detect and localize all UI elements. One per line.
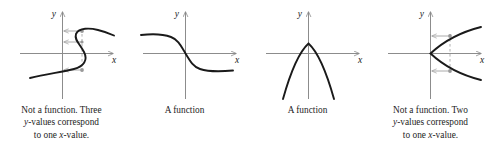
panel-1: y x Not a function. Three y-values corre… <box>0 0 123 156</box>
panel-4-caption-line-3: to one x-value. <box>369 129 491 141</box>
panel-4-caption-line-1: Not a function. Two <box>369 104 491 116</box>
caption-text: Not a function. Three <box>21 105 101 115</box>
panel-2-caption-line-1: A function <box>123 104 246 116</box>
panel-4-caption: Not a function. Two y-values correspond … <box>369 104 491 141</box>
caption-text: A function <box>165 105 205 115</box>
panel-4-graph: y x <box>369 0 491 104</box>
panel-3-caption-line-1: A function <box>246 104 369 116</box>
panel-2-x-axis-label: x <box>234 55 240 65</box>
caption-text: -values correspond <box>28 117 99 127</box>
panel-4-x-axis-label: x <box>479 55 485 65</box>
panel-1-caption: Not a function. Three y-values correspon… <box>0 104 123 141</box>
panel-1-intersection-dot-middle <box>80 40 83 43</box>
panel-4-caption-line-2: y-values correspond <box>369 116 491 128</box>
caption-text: Not a function. Two <box>393 105 468 115</box>
panel-3-graph: y x <box>246 0 369 104</box>
caption-text: A function <box>288 105 328 115</box>
panel-4: y x Not a function. Two y-values corresp… <box>369 0 491 156</box>
panel-1-caption-line-2: y-values correspond <box>0 116 123 128</box>
panel-4-y-axis-label: y <box>419 9 425 19</box>
panel-4-intersection-dot-upper <box>448 34 452 38</box>
panel-1-caption-line-1: Not a function. Three <box>0 104 123 116</box>
panel-1-x-axis-label: x <box>111 55 117 65</box>
panel-4-intersection-dot-lower <box>448 69 452 73</box>
caption-text: -values correspond <box>397 117 468 127</box>
panel-1-intersection-dot-lower <box>80 68 84 72</box>
panel-1-y-axis-label: y <box>51 9 57 19</box>
panel-1-graph: y x <box>0 0 123 104</box>
caption-text: to one <box>34 130 59 140</box>
caption-text: to one <box>403 130 428 140</box>
panel-2-caption: A function <box>123 104 246 116</box>
panel-3: y x A function <box>246 0 369 156</box>
caption-text: -value. <box>432 130 458 140</box>
panel-1-caption-line-3: to one x-value. <box>0 129 123 141</box>
panel-3-x-axis-label: x <box>357 55 363 65</box>
panel-3-caption: A function <box>246 104 369 116</box>
panel-3-y-axis-label: y <box>297 9 303 19</box>
caption-text: -value. <box>63 130 89 140</box>
panel-2-graph: y x <box>123 0 246 104</box>
panel-2-y-axis-label: y <box>174 9 180 19</box>
figure-container: y x Not a function. Three y-values corre… <box>0 0 491 156</box>
panel-2-curve <box>141 34 233 71</box>
panel-2: y x A function <box>123 0 246 156</box>
